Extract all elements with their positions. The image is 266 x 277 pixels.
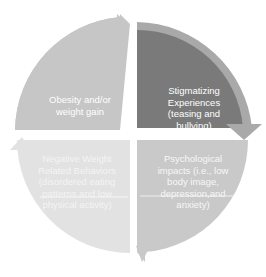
segment-label-obesity: Obesity and/or weight gain (30, 94, 130, 117)
cycle-diagram (0, 0, 266, 277)
segment-label-negative-behaviors: Negative Weight Related Behaviors (disor… (22, 153, 132, 211)
arrow-head-bottom-right (136, 246, 150, 262)
segment-label-stigmatizing: Stigmatizing Experiences (teasing and bu… (144, 85, 244, 131)
segment-label-psychological: Psychological impacts (i.e., low body im… (140, 153, 246, 211)
